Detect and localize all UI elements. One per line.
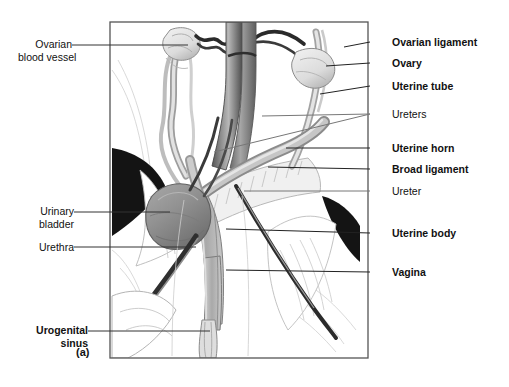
panel-label: (a) <box>76 346 89 358</box>
label-vagina: Vagina <box>392 266 426 279</box>
label-urinary-bladder: Urinary bladder <box>18 205 74 230</box>
label-ovary: Ovary <box>392 57 422 70</box>
label-ureter: Ureter <box>392 185 421 198</box>
urogenital-sinus <box>199 320 217 358</box>
label-uterine-tube: Uterine tube <box>392 80 453 93</box>
illustration-body <box>110 22 368 358</box>
ovary-left <box>163 28 200 61</box>
label-urethra: Urethra <box>18 241 74 254</box>
label-uterine-horn: Uterine horn <box>392 142 454 155</box>
label-ureters: Ureters <box>392 108 426 121</box>
label-ovarian-ligament: Ovarian ligament <box>392 36 477 49</box>
label-uterine-body: Uterine body <box>392 227 456 240</box>
label-broad-ligament: Broad ligament <box>392 163 468 176</box>
label-ovarian-blood-vessel: Ovarian blood vessel <box>18 38 72 63</box>
